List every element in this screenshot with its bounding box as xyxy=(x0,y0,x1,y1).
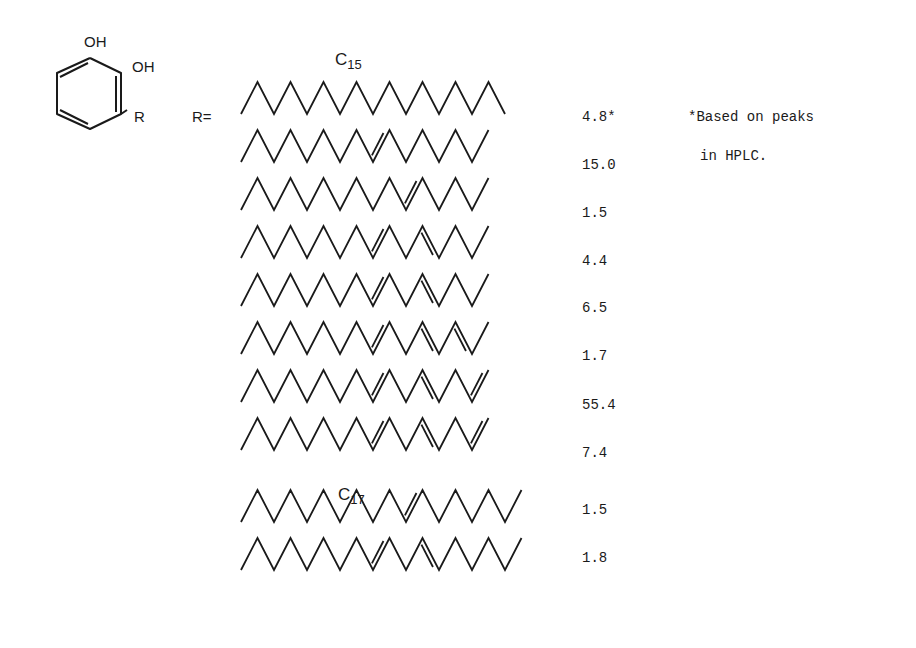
alkyl-chain-1 xyxy=(241,82,505,114)
alkyl-chain-7 xyxy=(241,370,489,402)
catechol-ring-structure xyxy=(0,0,916,648)
value-row-7: 55.4 xyxy=(582,397,616,413)
r-label: R xyxy=(134,108,145,125)
value-row-1: 4.8* xyxy=(582,109,616,125)
value-row-8: 7.4 xyxy=(582,445,607,461)
alkyl-chain-8 xyxy=(241,418,489,450)
alkyl-chain-2 xyxy=(241,130,489,162)
oh-label-side: OH xyxy=(132,58,155,75)
value-row-9: 1.5 xyxy=(582,502,607,518)
alkyl-chain-5 xyxy=(241,274,489,306)
alkyl-chain-9 xyxy=(241,490,522,522)
alkyl-chain-10 xyxy=(241,538,522,570)
alkyl-chain-3 xyxy=(241,178,489,210)
value-row-4: 4.4 xyxy=(582,253,607,269)
value-row-5: 6.5 xyxy=(582,300,607,316)
r-equals-label: R= xyxy=(192,108,212,125)
c17-label: C17 xyxy=(338,485,365,507)
c15-label: C15 xyxy=(335,50,362,72)
alkyl-chain-6 xyxy=(241,322,489,354)
footnote-line-2: in HPLC. xyxy=(700,148,767,164)
oh-label-top: OH xyxy=(84,33,107,50)
value-row-3: 1.5 xyxy=(582,205,607,221)
footnote-line-1: *Based on peaks xyxy=(688,109,814,125)
value-row-10: 1.8 xyxy=(582,550,607,566)
value-row-2: 15.0 xyxy=(582,157,616,173)
value-row-6: 1.7 xyxy=(582,348,607,364)
alkyl-chain-4 xyxy=(241,226,489,258)
